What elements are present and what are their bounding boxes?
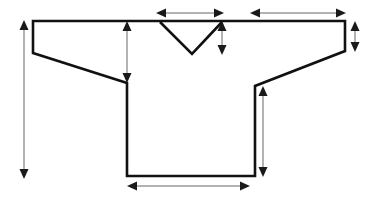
dimension-side-seam-length [259,86,268,177]
full-length-arrowhead-bottom [20,169,29,179]
hem-width-arrowhead-left [127,182,137,191]
neck-width-arrowhead-left [156,9,166,18]
dimension-full-length [20,20,29,179]
sleeve-length-arrowhead-left [250,9,260,18]
full-length-arrowhead-top [20,20,29,30]
dimension-hem-width [127,182,250,191]
hem-width-arrowhead-right [240,182,250,191]
dimension-sleeve-length [250,9,346,18]
cuff-opening-arrowhead-top [351,21,360,31]
side-seam-length-arrowhead-bottom [259,167,268,177]
jersey-outline-shape [33,21,345,176]
dimension-cuff-opening [351,21,360,52]
side-seam-length-arrowhead-top [259,86,268,96]
cuff-opening-arrowhead-bottom [351,42,360,52]
sleeve-length-arrowhead-right [336,9,346,18]
dimension-neck-width [156,9,224,18]
neck-width-arrowhead-right [214,9,224,18]
jersey-technical-drawing [0,0,374,200]
garment-measurement-diagram [0,0,374,200]
